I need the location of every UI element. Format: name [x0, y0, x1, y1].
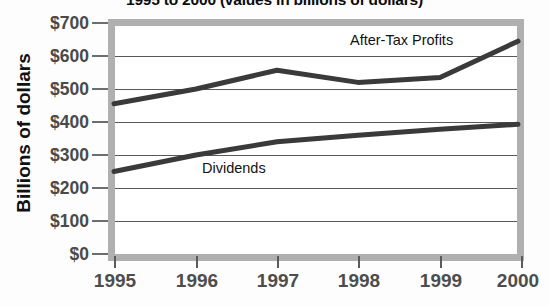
x-tick-mark-2000 [521, 256, 523, 268]
gridline-300 [115, 155, 517, 156]
line-chart: 1995 to 2000 (values in billions of doll… [0, 0, 549, 306]
gridline-100 [115, 221, 517, 222]
chart-title: 1995 to 2000 (values in billions of doll… [0, 0, 549, 9]
x-tick-label-1997: 1997 [233, 270, 323, 292]
x-tick-mark-1995 [114, 256, 116, 268]
series-label-after-tax-profits: After-Tax Profits [350, 32, 453, 48]
plot-area [115, 26, 517, 254]
x-tick-mark-1999 [440, 256, 442, 268]
y-tick-label-500: $500 [3, 79, 89, 100]
y-tick-label-600: $600 [3, 46, 89, 67]
y-tick-label-200: $200 [3, 178, 89, 199]
y-tick-label-700: $700 [3, 13, 89, 34]
y-tick-label-400: $400 [3, 112, 89, 133]
gridline-200 [115, 188, 517, 189]
x-tick-mark-1996 [196, 256, 198, 268]
x-tick-label-1996: 1996 [152, 270, 242, 292]
x-tick-mark-1997 [277, 256, 279, 268]
x-tick-label-2000: 2000 [473, 270, 549, 292]
y-tick-label-300: $300 [3, 145, 89, 166]
y-tick-label-0: $0 [3, 244, 89, 265]
gridline-500 [115, 89, 517, 90]
gridline-400 [115, 122, 517, 123]
series-label-dividends: Dividends [202, 160, 266, 176]
gridline-600 [115, 56, 517, 57]
x-tick-mark-1998 [358, 256, 360, 268]
y-tick-label-100: $100 [3, 211, 89, 232]
x-tick-label-1995: 1995 [70, 270, 160, 292]
x-tick-label-1998: 1998 [314, 270, 404, 292]
